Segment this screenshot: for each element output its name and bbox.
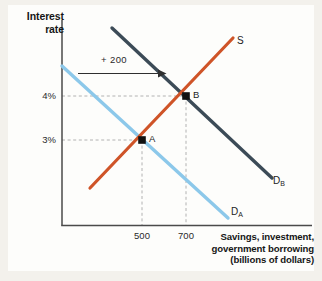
axes [61, 20, 312, 226]
marker-point-a [138, 136, 146, 144]
curve-demand-b [112, 28, 272, 178]
marker-point-b [182, 92, 190, 100]
x-axis-title-line-3: (billions of dollars) [196, 254, 314, 266]
curve-label-demand-a-sub: A [238, 211, 243, 218]
chart-figure: Interest rate Savings, investment, gover… [0, 0, 322, 281]
x-axis-title-line-1: Savings, investment, [196, 231, 314, 243]
curve-label-demand-b-sub: B [280, 180, 285, 187]
shift-arrow-label: + 200 [101, 54, 127, 65]
y-axis-title-line-1: Interest [12, 10, 64, 23]
y-tick-label-4pct: 4% [30, 90, 56, 101]
point-label-a: A [149, 133, 155, 144]
curve-label-supply: S [237, 35, 244, 46]
curve-label-demand-a: DA [231, 206, 243, 218]
x-axis-title-line-2: government borrowing [196, 243, 314, 255]
x-tick-label-700: 700 [169, 230, 203, 241]
point-label-b: B [193, 89, 199, 100]
y-tick-label-3pct: 3% [30, 134, 56, 145]
x-tick-label-500: 500 [125, 230, 159, 241]
shift-arrow-icon [78, 69, 167, 77]
y-axis-title-line-2: rate [12, 23, 64, 36]
curve-label-demand-b: DB [273, 175, 285, 187]
x-axis-title: Savings, investment, government borrowin… [196, 231, 314, 266]
y-axis-title: Interest rate [12, 10, 64, 35]
